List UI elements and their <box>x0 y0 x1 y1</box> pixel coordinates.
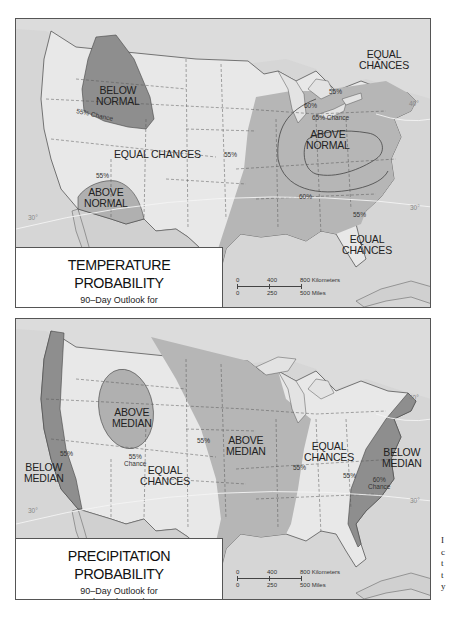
temperature-title: TEMPERATURE PROBABILITY <box>24 256 214 292</box>
above-normal-east-label: ABOVENORMAL <box>306 129 350 150</box>
equal-chances-center-label: EQUAL CHANCES <box>114 149 201 160</box>
above-median-central-pct: 55% <box>197 438 210 445</box>
latitude-30-west-label: 30° <box>28 508 38 515</box>
temperature-probability-map: BELOWNORMAL 55% Chance EQUAL CHANCES 55%… <box>15 18 431 308</box>
equal-chances-ne-label: EQUALCHANCES <box>359 49 409 70</box>
below-median-west-label: BELOWMEDIAN <box>24 462 64 483</box>
latitude-40-label: 40° <box>409 395 419 402</box>
contour-60-north: 60% <box>304 103 317 110</box>
above-normal-sw-label: ABOVENORMAL <box>84 187 128 208</box>
below-median-east-label: BELOWMEDIAN <box>382 447 422 468</box>
equal-chances-east-pct: 55% <box>293 465 306 472</box>
latitude-30-east-label: 30° <box>410 498 420 505</box>
equal-chances-west-label: EQUALCHANCES <box>140 465 190 486</box>
contour-60-south: 60% <box>299 194 312 201</box>
below-median-east-pct: 55% <box>343 473 356 480</box>
temperature-title-box: TEMPERATURE PROBABILITY 90–Day Outlook f… <box>16 247 223 307</box>
equal-chances-east-label: EQUALCHANCES <box>304 441 354 462</box>
contour-55-ne: 55% <box>329 89 342 96</box>
below-median-east-chance: 60%Chance <box>368 477 390 490</box>
scale-bar: 0 400 800 Kilometers 0 250 500 Miles <box>234 569 354 594</box>
precipitation-probability-map: ABOVEMEDIAN 55%Chance 55% BELOWMEDIAN EQ… <box>15 318 431 600</box>
below-median-west-pct: 55% <box>60 451 73 458</box>
truncated-side-text: I c t t y <box>441 535 446 593</box>
contour-55-sw: 55% <box>96 173 109 180</box>
below-normal-label: BELOWNORMAL <box>96 85 140 106</box>
latitude-30-west-label: 30° <box>28 215 38 222</box>
above-median-west-label: ABOVEMEDIAN <box>112 407 152 428</box>
equal-chances-se-label: EQUALCHANCES <box>342 234 392 255</box>
precipitation-title-box: PRECIPITATION PROBABILITY 90–Day Outlook… <box>16 538 223 599</box>
contour-55-west: 55% <box>224 152 237 159</box>
precipitation-title: PRECIPITATION PROBABILITY <box>24 547 214 583</box>
scale-bar: 0 400 800 Kilometers 0 250 500 Miles <box>234 277 354 302</box>
contour-65-chance: 65% Chance <box>312 115 349 122</box>
precipitation-subtitle: 90–Day Outlook forAugust through October… <box>16 586 222 600</box>
above-median-central-label: ABOVEMEDIAN <box>226 435 266 456</box>
temperature-subtitle: 90–Day Outlook forAugust through October… <box>16 295 222 308</box>
latitude-30-east-label: 30° <box>410 205 420 212</box>
latitude-40-label: 40° <box>409 101 419 108</box>
contour-55-se: 55% <box>353 212 366 219</box>
